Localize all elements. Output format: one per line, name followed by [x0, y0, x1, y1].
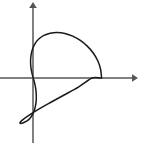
cardioid-figure — [0, 0, 143, 143]
plot-canvas — [0, 0, 143, 143]
